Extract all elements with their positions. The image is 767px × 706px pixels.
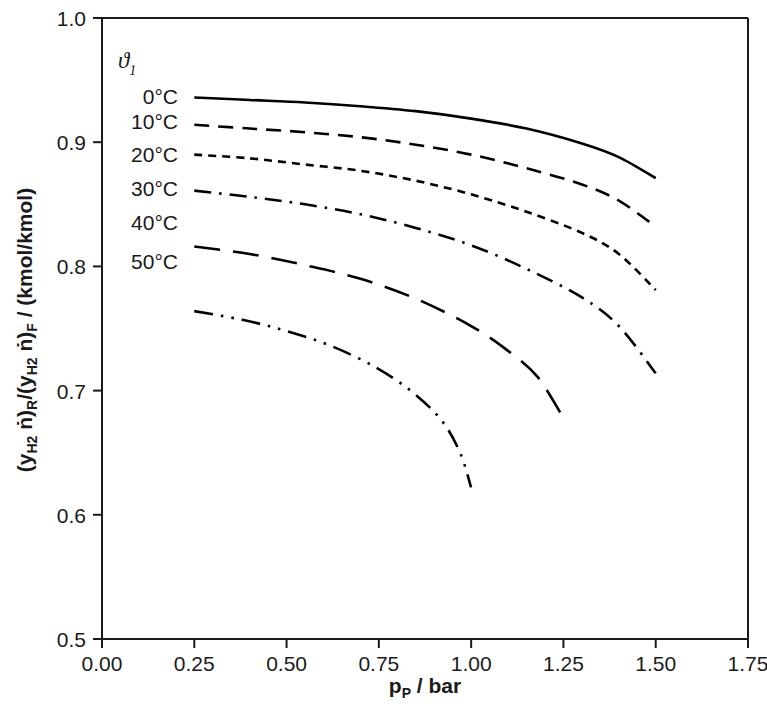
y-tick-label: 1.0 <box>57 7 86 30</box>
legend-label-50C: 50°C <box>131 250 178 273</box>
x-tick-label: 0.25 <box>174 652 215 675</box>
y-axis-ticks: 0.50.60.70.80.91.0 <box>57 7 102 651</box>
x-tick-label: 1.50 <box>635 652 676 675</box>
legend-title: ϑ1 <box>118 48 136 78</box>
y-tick-label: 0.5 <box>57 628 86 651</box>
x-axis-title: pP / bar <box>389 674 461 701</box>
y-tick-label: 0.8 <box>57 255 86 278</box>
x-tick-label: 0.75 <box>358 652 399 675</box>
y-tick-label: 0.9 <box>57 131 86 154</box>
series-curve-0C <box>194 97 655 178</box>
x-tick-label: 0.50 <box>266 652 307 675</box>
legend: ϑ1 0°C10°C20°C30°C40°C50°C <box>118 48 178 273</box>
series-curve-10C <box>194 125 655 227</box>
y-tick-label: 0.7 <box>57 380 86 403</box>
x-tick-label: 1.25 <box>543 652 584 675</box>
series-curve-20C <box>194 155 655 290</box>
x-tick-label: 1.00 <box>451 652 492 675</box>
series-curve-30C <box>194 191 655 374</box>
legend-label-30C: 30°C <box>131 177 178 200</box>
x-tick-label: 0.00 <box>82 652 123 675</box>
y-tick-label: 0.6 <box>57 504 86 527</box>
legend-label-40C: 40°C <box>131 211 178 234</box>
legend-label-10C: 10°C <box>131 110 178 133</box>
figure-container: 0.50.60.70.80.91.0 0.000.250.500.751.001… <box>0 0 767 706</box>
x-axis-ticks: 0.000.250.500.751.001.251.501.75 <box>82 639 767 675</box>
y-axis-title: (yH2 ṅ)R/(yH2 ṅ)F / (kmol/kmol) <box>13 188 40 472</box>
data-series-group <box>194 97 655 487</box>
legend-label-0C: 0°C <box>143 85 178 108</box>
series-curve-40C <box>194 247 563 418</box>
x-tick-label: 1.75 <box>728 652 767 675</box>
legend-label-20C: 20°C <box>131 143 178 166</box>
chart-canvas: 0.50.60.70.80.91.0 0.000.250.500.751.001… <box>0 0 767 706</box>
series-curve-50C <box>194 311 471 487</box>
